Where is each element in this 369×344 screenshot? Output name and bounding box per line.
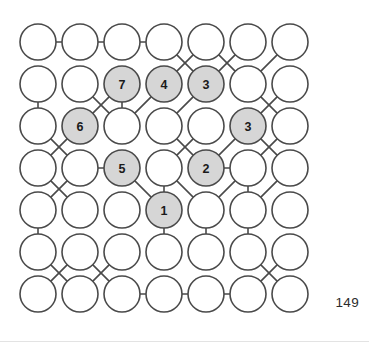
graph-node[interactable]: [146, 234, 182, 270]
graph-node[interactable]: [62, 276, 98, 312]
graph-node[interactable]: [272, 108, 308, 144]
graph-node[interactable]: [230, 24, 266, 60]
graph-node-shaded[interactable]: 7: [104, 66, 140, 102]
node-circle: [62, 66, 98, 102]
node-circle: [62, 150, 98, 186]
node-circle: [20, 108, 56, 144]
graph-node[interactable]: [146, 276, 182, 312]
graph-edge: [134, 96, 151, 113]
graph-node[interactable]: [230, 276, 266, 312]
node-circle: [146, 276, 182, 312]
graph-node[interactable]: [230, 150, 266, 186]
graph-node[interactable]: [188, 192, 224, 228]
graph-node-shaded[interactable]: 1: [146, 192, 182, 228]
graph-edge: [134, 180, 151, 197]
node-circle: [62, 276, 98, 312]
graph-node[interactable]: [272, 66, 308, 102]
graph-node[interactable]: [188, 108, 224, 144]
graph-node[interactable]: [104, 234, 140, 270]
graph-node[interactable]: [272, 24, 308, 60]
graph-node[interactable]: [146, 108, 182, 144]
graph-node[interactable]: [146, 150, 182, 186]
graph-node-shaded[interactable]: 2: [188, 150, 224, 186]
node-circle: [272, 66, 308, 102]
node-circle: [230, 24, 266, 60]
node-circle: [230, 192, 266, 228]
graph-node[interactable]: [230, 192, 266, 228]
node-circle: [104, 234, 140, 270]
node-circle: [104, 24, 140, 60]
node-circle: [20, 150, 56, 186]
node-circle: [20, 24, 56, 60]
graph-edge: [260, 54, 277, 71]
graph-node[interactable]: [272, 276, 308, 312]
graph-node[interactable]: [62, 192, 98, 228]
graph-node[interactable]: [20, 276, 56, 312]
graph-node[interactable]: [104, 276, 140, 312]
graph-node[interactable]: [62, 150, 98, 186]
node-label: 1: [161, 204, 168, 218]
graph-node[interactable]: [104, 108, 140, 144]
node-circle: [146, 108, 182, 144]
node-circle: [272, 276, 308, 312]
graph-node[interactable]: [104, 192, 140, 228]
graph-node-shaded[interactable]: 6: [62, 108, 98, 144]
node-circle: [146, 234, 182, 270]
graph-node[interactable]: [272, 192, 308, 228]
node-circle: [188, 234, 224, 270]
node-circle: [104, 192, 140, 228]
graph-node[interactable]: [230, 66, 266, 102]
node-circle: [62, 234, 98, 270]
page-number: 149: [336, 295, 359, 310]
graph-node-shaded[interactable]: 5: [104, 150, 140, 186]
graph-edge: [176, 180, 193, 197]
graph-node[interactable]: [188, 276, 224, 312]
graph-edge: [260, 180, 277, 197]
node-label: 3: [203, 78, 210, 92]
node-circle: [104, 276, 140, 312]
graph-node[interactable]: [20, 192, 56, 228]
graph-node[interactable]: [20, 66, 56, 102]
graph-node[interactable]: [272, 234, 308, 270]
node-circle: [20, 234, 56, 270]
node-label: 3: [245, 120, 252, 134]
graph-diagram: 74363521: [0, 0, 369, 344]
node-label: 4: [161, 78, 168, 92]
graph-node[interactable]: [230, 234, 266, 270]
graph-node[interactable]: [272, 150, 308, 186]
graph-node[interactable]: [20, 24, 56, 60]
graph-node[interactable]: [104, 24, 140, 60]
graph-node[interactable]: [20, 108, 56, 144]
node-circle: [188, 192, 224, 228]
node-circle: [62, 24, 98, 60]
graph-node[interactable]: [20, 234, 56, 270]
graph-node[interactable]: [20, 150, 56, 186]
node-label: 6: [77, 120, 84, 134]
node-circle: [20, 66, 56, 102]
graph-node[interactable]: [146, 24, 182, 60]
graph-node[interactable]: [62, 234, 98, 270]
node-circle: [188, 276, 224, 312]
graph-edge: [218, 138, 235, 155]
graph-node[interactable]: [188, 234, 224, 270]
graph-node-shaded[interactable]: 3: [230, 108, 266, 144]
figure-container: 74363521 149: [0, 0, 369, 344]
node-circle: [62, 192, 98, 228]
graph-node-shaded[interactable]: 3: [188, 66, 224, 102]
graph-node-shaded[interactable]: 4: [146, 66, 182, 102]
node-circle: [20, 192, 56, 228]
node-circle: [272, 150, 308, 186]
graph-node[interactable]: [62, 24, 98, 60]
node-circle: [272, 108, 308, 144]
graph-edge: [218, 180, 235, 197]
node-circle: [230, 276, 266, 312]
node-circle: [272, 192, 308, 228]
node-circle: [188, 108, 224, 144]
node-circle: [104, 108, 140, 144]
node-circle: [188, 24, 224, 60]
graph-node[interactable]: [62, 66, 98, 102]
node-circle: [230, 150, 266, 186]
node-circle: [146, 24, 182, 60]
node-circle: [230, 234, 266, 270]
graph-node[interactable]: [188, 24, 224, 60]
